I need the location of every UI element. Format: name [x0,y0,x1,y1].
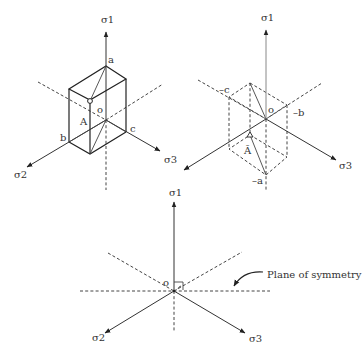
origin-label: o [268,104,274,115]
point-abar-marker [247,132,253,137]
vertex-neg-b-label: –b [293,107,304,118]
sigma2-label: σ2 [92,332,105,343]
dashed-line-right [106,84,163,120]
plane-of-symmetry-label: Plane of symmetry [267,269,362,280]
sigma1-label: σ1 [101,14,114,25]
plane-pointer-arrow [234,272,263,286]
vertex-a-label: a [108,54,114,65]
vertex-b-label: b [60,132,66,143]
sigma2-label: σ2 [14,169,27,180]
vertex-neg-a-label: –a [252,175,263,186]
panel-cube-negative: σ1 σ3 o –c –b –a Ā [184,12,352,190]
dashed-prism [229,83,287,175]
sigma2-axis [105,291,174,333]
sigma1-label: σ1 [261,12,274,23]
sigma1-label: σ1 [169,187,182,198]
sigma3-axis [266,119,336,160]
point-abar-label: Ā [243,145,252,156]
origin-point [173,290,176,293]
dashed-line-right-diagonal [174,252,242,291]
vertex-c-label: c [130,123,136,134]
panel-symmetry: σ1 σ2 σ3 o Plane of symmetry [80,187,362,344]
vertex-neg-c-label: –c [219,84,230,95]
principal-stress-diagram: σ1 σ2 σ3 o a b c A σ1 σ3 o –c –b – [0,0,363,361]
point-a-label: A [79,116,88,127]
sigma3-label: σ3 [164,154,177,165]
origin-label: o [163,277,169,288]
origin-label: o [97,104,103,115]
point-a-marker [88,99,93,104]
panel-cube: σ1 σ2 σ3 o a b c A [14,14,177,190]
sigma3-axis [174,291,245,333]
sigma3-label: σ3 [339,160,352,171]
sigma3-label: σ3 [249,333,262,344]
